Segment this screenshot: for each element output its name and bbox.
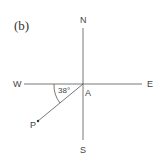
point-p-label: P: [30, 120, 36, 130]
compass-diagram: (b) N S W E A P 38°: [0, 0, 162, 159]
east-label: E: [147, 79, 153, 89]
point-a-label: A: [85, 88, 91, 98]
point-p-dot: [37, 120, 39, 122]
west-label: W: [13, 79, 22, 89]
north-label: N: [80, 15, 87, 25]
angle-label: 38°: [58, 86, 70, 95]
figure-label: (b): [14, 18, 29, 33]
south-label: S: [80, 145, 86, 155]
